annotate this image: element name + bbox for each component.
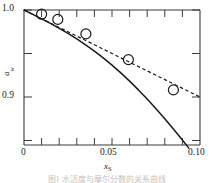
x-axis-ticks-bottom: [42, 138, 183, 145]
data-point: [168, 85, 178, 95]
data-point: [123, 55, 133, 65]
x-axis-ticks-top: [42, 10, 183, 17]
y-axis-ticks-left: [24, 10, 32, 141]
data-point-markers: [37, 9, 179, 95]
data-point: [81, 29, 91, 39]
y-axis-title-symbol: a: [1, 71, 11, 75]
y-axis-title-subscript: w: [8, 67, 14, 71]
y-axis-title-text: aw: [2, 58, 13, 84]
x-tick-label-0p10: 0.10: [188, 148, 205, 158]
x-tick-label-0p05: 0.05: [100, 148, 117, 158]
figure-caption: 图1 水活度与摩尔分数的关系曲线: [0, 175, 213, 183]
x-axis-title: xS: [104, 162, 112, 171]
y-tick-label-1p0: 1.0: [2, 4, 14, 14]
figure-container: 1.0 0.9 0 0.05 0.10 aw xS 图1 水活度与摩尔分数的关系…: [0, 0, 213, 183]
y-axis-title: aw: [0, 60, 14, 84]
data-point: [53, 14, 63, 24]
x-tick-label-0: 0: [21, 148, 26, 158]
x-axis-title-subscript: S: [108, 165, 112, 172]
y-axis-ticks-right: [192, 10, 200, 141]
axis-frame: [24, 10, 200, 145]
y-tick-label-0p9: 0.9: [2, 91, 14, 101]
fitted-curve: [24, 10, 189, 148]
